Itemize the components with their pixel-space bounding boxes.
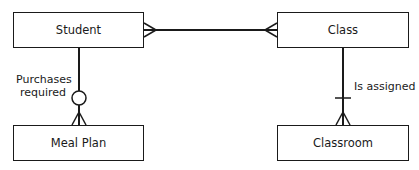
entity-label: Class (328, 23, 358, 37)
entity-label: Meal Plan (51, 136, 106, 150)
relationship-label-purchases: Purchases required (16, 73, 66, 99)
label-text: Is assigned (354, 80, 415, 93)
entity-classroom: Classroom (277, 125, 409, 161)
label-line: required (16, 86, 66, 99)
relationship-label-is-assigned: Is assigned (354, 80, 415, 93)
label-line: Purchases (16, 73, 66, 86)
entity-meal-plan: Meal Plan (13, 125, 144, 161)
entity-label: Classroom (313, 136, 373, 150)
entity-student: Student (13, 12, 144, 48)
optional-circle-icon (72, 91, 86, 105)
entity-class: Class (277, 12, 409, 48)
entity-label: Student (56, 23, 101, 37)
